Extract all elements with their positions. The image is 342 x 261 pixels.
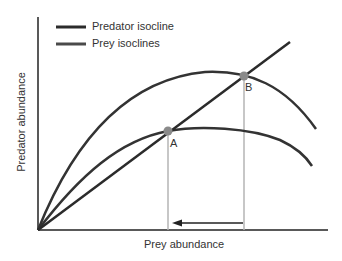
isocline-diagram (0, 0, 342, 261)
legend-label-prey: Prey isoclines (92, 37, 160, 49)
arrowhead-icon (172, 220, 182, 227)
y-axis-label: Predator abundance (15, 72, 27, 172)
x-axis-label: Prey abundance (144, 238, 224, 250)
point-b-label: B (245, 81, 252, 93)
prey-isocline-high (38, 72, 316, 230)
legend-label-predator: Predator isocline (92, 20, 174, 32)
predator-isocline (38, 42, 290, 230)
point-a-marker (164, 127, 173, 136)
point-b-marker (240, 72, 249, 81)
point-a-label: A (170, 137, 177, 149)
